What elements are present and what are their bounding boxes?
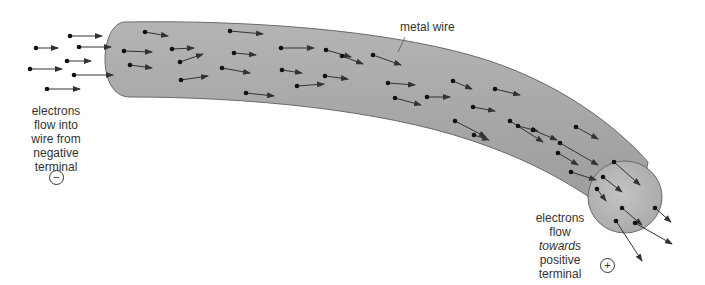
electron-dot bbox=[595, 187, 600, 192]
electron-dot bbox=[244, 91, 249, 96]
electron-dot bbox=[295, 84, 300, 89]
electron-dot bbox=[620, 206, 625, 211]
electron-dot bbox=[323, 74, 328, 79]
electron-dot bbox=[280, 68, 285, 73]
electron-dot bbox=[508, 119, 513, 124]
positive-terminal-icon: + bbox=[600, 258, 615, 273]
electron-dot bbox=[653, 206, 658, 211]
right-caption-line: electrons bbox=[524, 211, 596, 225]
electron-dot bbox=[601, 175, 606, 180]
electron-dot bbox=[324, 48, 329, 53]
electron-dot bbox=[340, 54, 345, 59]
electron-dot bbox=[633, 221, 638, 226]
electron-dot bbox=[425, 95, 430, 100]
right-caption-line: terminal bbox=[524, 267, 596, 281]
electron-dot bbox=[143, 30, 148, 35]
electron-dot bbox=[77, 45, 82, 50]
right-caption-line: positive bbox=[524, 253, 596, 267]
electron-dot bbox=[65, 59, 70, 64]
right-caption-line: flow bbox=[524, 225, 596, 239]
electron-dot bbox=[393, 96, 398, 101]
electron-dot bbox=[371, 53, 376, 58]
electron-dot bbox=[556, 151, 561, 156]
electron-dot bbox=[72, 73, 77, 78]
right-caption-line: towards bbox=[524, 239, 596, 253]
left-caption-line: electrons bbox=[20, 104, 92, 118]
electron-dot bbox=[28, 67, 33, 72]
electron-dot bbox=[45, 87, 50, 92]
electron-dot bbox=[612, 160, 617, 165]
electron-dot bbox=[386, 81, 391, 86]
electron-dot bbox=[179, 78, 184, 83]
electron-dot bbox=[122, 49, 127, 54]
electron-dot bbox=[614, 219, 619, 224]
left-caption-line: wire from bbox=[20, 132, 92, 146]
electron-dot bbox=[493, 87, 498, 92]
electron-dot bbox=[451, 79, 456, 84]
electron-dot bbox=[34, 46, 39, 51]
electron-dot bbox=[170, 47, 175, 52]
electron-direction-arrow bbox=[635, 223, 672, 244]
electron-dot bbox=[516, 124, 521, 129]
electron-dot bbox=[471, 105, 476, 110]
electron-dot bbox=[574, 125, 579, 130]
electron-dot bbox=[531, 128, 536, 133]
electron-dot bbox=[453, 119, 458, 124]
right-caption: electrons flow towards positive terminal bbox=[524, 211, 596, 281]
wire-diagram bbox=[0, 0, 705, 285]
negative-terminal-icon: − bbox=[49, 170, 64, 185]
left-caption-line: negative bbox=[20, 146, 92, 160]
electron-dot bbox=[178, 60, 183, 65]
electron-dot bbox=[472, 133, 477, 138]
electron-dot bbox=[279, 46, 284, 51]
electron-dot bbox=[232, 51, 237, 56]
electron-dot bbox=[558, 141, 563, 146]
electron-dot bbox=[128, 63, 133, 68]
metal-wire bbox=[105, 22, 648, 230]
electron-dot bbox=[228, 29, 233, 34]
left-caption: electrons flow into wire from negative t… bbox=[20, 104, 92, 174]
electron-dot bbox=[569, 170, 574, 175]
metal-wire-label: metal wire bbox=[400, 20, 455, 34]
electron-dot bbox=[68, 34, 73, 39]
electron-dot bbox=[220, 66, 225, 71]
left-caption-line: flow into bbox=[20, 118, 92, 132]
